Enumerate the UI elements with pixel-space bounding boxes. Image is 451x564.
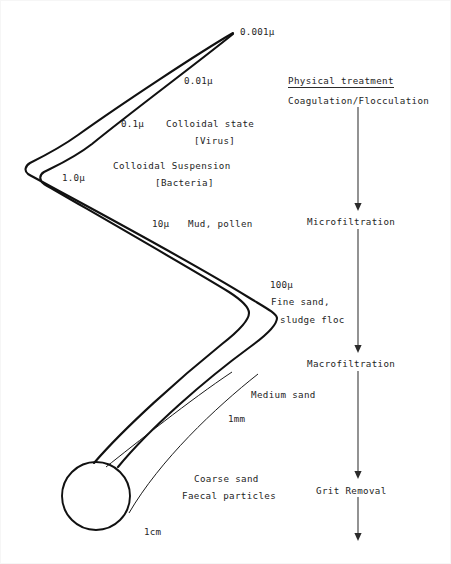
particle-label-mud-pollen: Mud, pollen bbox=[188, 219, 253, 229]
particle-label-coarse-sand: Coarse sand bbox=[194, 474, 259, 484]
arrow-microfiltration-to-macrofiltration bbox=[354, 229, 361, 353]
particle-label-faecal-particles: Faecal particles bbox=[182, 491, 276, 501]
funnel-mouth-circle bbox=[62, 462, 130, 530]
treatment-flow-arrows bbox=[354, 107, 361, 541]
diagram-page: 0.001μ 0.01μ 0.1μ 1.0μ 10μ 100μ 1mm 1cm … bbox=[0, 0, 451, 564]
arrow-coagulation-to-microfiltration bbox=[354, 107, 361, 211]
size-label-100u: 100μ bbox=[270, 280, 293, 290]
treatment-step-grit-removal: Grit Removal bbox=[316, 486, 387, 496]
size-label-1cm: 1cm bbox=[144, 527, 161, 537]
size-label-1.0u: 1.0μ bbox=[62, 173, 85, 183]
size-label-1mm: 1mm bbox=[228, 414, 245, 424]
particle-label-bacteria: [Bacteria] bbox=[155, 178, 214, 188]
particle-label-fine-sand: Fine sand, bbox=[271, 297, 330, 307]
particle-label-virus: [Virus] bbox=[194, 136, 235, 146]
funnel-inner-curve bbox=[40, 34, 249, 463]
particle-label-colloidal-state: Colloidal state bbox=[166, 119, 254, 129]
size-label-0.01u: 0.01μ bbox=[184, 76, 213, 86]
particle-label-colloidal-suspension: Colloidal Suspension bbox=[113, 161, 231, 171]
funnel-lower-tangent-upper bbox=[106, 372, 232, 467]
arrow-macrofiltration-to-gritremoval bbox=[354, 371, 361, 479]
size-label-0.1u: 0.1μ bbox=[121, 119, 144, 129]
treatment-step-microfiltration: Microfiltration bbox=[307, 217, 395, 227]
particle-label-medium-sand: Medium sand bbox=[251, 390, 316, 400]
treatment-step-macrofiltration: Macrofiltration bbox=[307, 359, 395, 369]
arrow-gritremoval-outflow bbox=[354, 497, 361, 541]
size-label-0.001u: 0.001μ bbox=[240, 27, 274, 37]
size-label-10u: 10μ bbox=[152, 219, 169, 229]
particle-label-sludge-floc: sludge floc bbox=[280, 315, 345, 325]
treatment-step-coagulation-flocculation: Coagulation/Flocculation bbox=[288, 96, 429, 106]
treatment-column-heading: Physical treatment bbox=[288, 76, 394, 88]
